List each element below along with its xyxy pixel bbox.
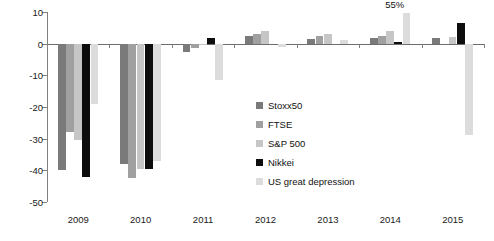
bar [253, 34, 261, 44]
y-tick-label: -40 [29, 165, 43, 176]
legend-swatch-icon [256, 159, 263, 166]
bar [340, 40, 348, 44]
bar [261, 31, 269, 43]
bar [183, 44, 191, 52]
legend-swatch-icon [256, 140, 263, 147]
y-tick-label: -30 [29, 133, 43, 144]
bar-value-annotation: 55% [385, 0, 404, 10]
bar [215, 44, 223, 81]
bar [370, 38, 378, 44]
bar [91, 44, 99, 104]
y-tick-label: -20 [29, 102, 43, 113]
bar [153, 44, 161, 161]
bar [394, 42, 402, 43]
x-axis-label: 2012 [255, 214, 276, 225]
legend-swatch-icon [256, 121, 263, 128]
legend-item[interactable]: Nikkei [256, 153, 355, 172]
y-tick-label: -10 [29, 70, 43, 81]
bar [128, 44, 136, 179]
chart-legend: Stoxx50FTSES&P 500NikkeiUS great depress… [256, 96, 355, 191]
bar [137, 44, 145, 169]
bar [66, 44, 74, 133]
bar-chart: 100-10-20-30-40-50 200920102011201220132… [0, 0, 494, 241]
bar [316, 36, 324, 44]
bar [432, 38, 440, 43]
legend-swatch-icon [256, 178, 263, 185]
legend-item[interactable]: FTSE [256, 115, 355, 134]
bar [191, 44, 199, 48]
legend-item-label: S&P 500 [268, 138, 305, 149]
x-axis-label: 2009 [68, 214, 89, 225]
legend-item-label: Stoxx50 [268, 100, 302, 111]
legend-item-label: US great depression [268, 176, 355, 187]
bar [278, 44, 286, 47]
bar [403, 13, 411, 44]
x-tick-mark [484, 44, 485, 48]
legend-item[interactable]: S&P 500 [256, 134, 355, 153]
bar [58, 44, 66, 171]
bar [199, 44, 207, 45]
x-axis-label: 2013 [317, 214, 338, 225]
bar [307, 39, 315, 44]
bar [324, 34, 332, 44]
legend-item[interactable]: US great depression [256, 172, 355, 191]
bar [245, 36, 253, 44]
bar [378, 36, 386, 44]
legend-item-label: FTSE [268, 119, 292, 130]
x-axis-label: 2015 [442, 214, 463, 225]
x-axis-label: 2011 [193, 214, 213, 225]
bar [465, 44, 473, 136]
bar [207, 38, 215, 44]
bar [120, 44, 128, 164]
bar [145, 44, 153, 169]
bar [74, 44, 82, 141]
x-axis-label: 2010 [130, 214, 151, 225]
bar [457, 23, 465, 43]
y-tick-label: 10 [32, 7, 43, 18]
bar [82, 44, 90, 177]
x-axis-label: 2014 [380, 214, 401, 225]
legend-item-label: Nikkei [268, 157, 294, 168]
legend-swatch-icon [256, 102, 263, 109]
legend-item[interactable]: Stoxx50 [256, 96, 355, 115]
y-tick-label: 0 [38, 38, 43, 49]
y-tick-label: -50 [29, 197, 43, 208]
bar [449, 37, 457, 44]
bar [386, 31, 394, 44]
